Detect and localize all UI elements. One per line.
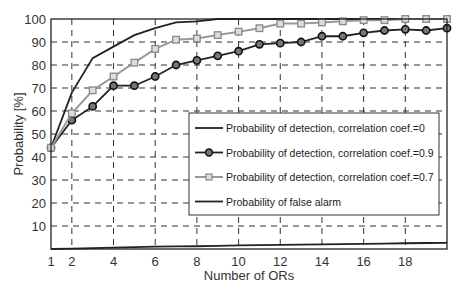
x-tick-label: 6 — [152, 254, 159, 269]
legend-entry-label: Probability of detection, correlation co… — [226, 171, 434, 183]
y-tick-label: 60 — [32, 104, 46, 119]
y-tick-label: 50 — [32, 127, 46, 142]
x-tick-label: 16 — [356, 254, 370, 269]
y-tick-label: 10 — [32, 219, 46, 234]
y-tick-label: 100 — [24, 12, 46, 27]
legend: Probability of detection, correlation co… — [189, 113, 439, 215]
y-tick-label: 80 — [32, 58, 46, 73]
y-tick-label: 90 — [32, 35, 46, 50]
legend-entry-label: Probability of detection, correlation co… — [226, 147, 434, 159]
x-tick-label: 1 — [47, 254, 54, 269]
y-tick-label: 20 — [32, 196, 46, 211]
y-tick-label: 40 — [32, 150, 46, 165]
x-tick-label: 10 — [231, 254, 245, 269]
x-axis-label: Number of ORs — [204, 268, 295, 283]
legend-entry-label: Probability of detection, correlation co… — [226, 122, 425, 134]
legend-entry-label: Probability of false alarm — [226, 196, 341, 208]
x-tick-label: 12 — [273, 254, 287, 269]
x-tick-label: 18 — [398, 254, 412, 269]
x-tick-label: 4 — [110, 254, 117, 269]
series-3 — [51, 243, 447, 249]
x-tick-label: 8 — [193, 254, 200, 269]
line-chart: 124681012141618102030405060708090100 Num… — [0, 0, 461, 286]
y-axis-label: Probability [%] — [11, 92, 26, 175]
x-tick-label: 14 — [315, 254, 329, 269]
y-tick-label: 30 — [32, 173, 46, 188]
x-tick-label: 2 — [68, 254, 75, 269]
y-tick-label: 70 — [32, 81, 46, 96]
